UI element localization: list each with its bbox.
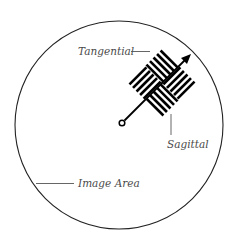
- sagittal-label: Sagittal: [167, 138, 209, 150]
- center-point-marker: [119, 120, 125, 126]
- image-area-label: Image Area: [77, 177, 140, 189]
- tangential-label: Tangential: [78, 45, 134, 57]
- lens-diagram: Tangential Sagittal Image Area: [0, 0, 234, 242]
